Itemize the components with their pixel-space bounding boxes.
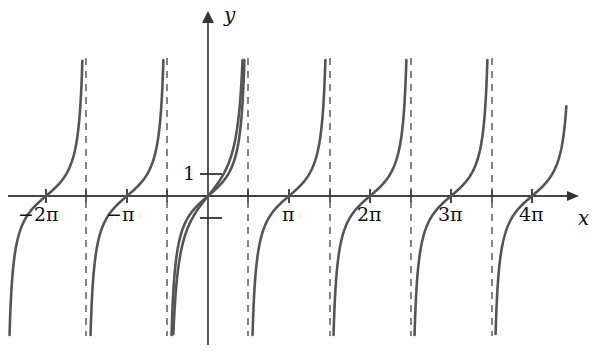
x-tick-label-2pi: 2π (357, 205, 382, 224)
x-tick-label-pi: π (282, 205, 295, 224)
y-tick-label-one: 1 (183, 164, 195, 183)
tangent-function-figure: −2π −π π 2π 3π 4π 1 x y (0, 0, 604, 357)
y-axis-label: y (224, 5, 235, 25)
x-tick-label-4pi: 4π (519, 205, 544, 224)
plot-canvas (0, 0, 604, 357)
tangent-branch (415, 60, 488, 335)
x-tick-label-neg-pi: −π (106, 205, 134, 224)
tangent-branch (253, 60, 326, 335)
tangent-branch (334, 60, 407, 335)
tangent-branch (91, 60, 164, 335)
x-tick-label-3pi: 3π (438, 205, 463, 224)
tangent-curve-group (10, 60, 567, 335)
x-tick-label-neg-2pi: −2π (18, 205, 59, 224)
x-axis-label: x (578, 208, 589, 228)
